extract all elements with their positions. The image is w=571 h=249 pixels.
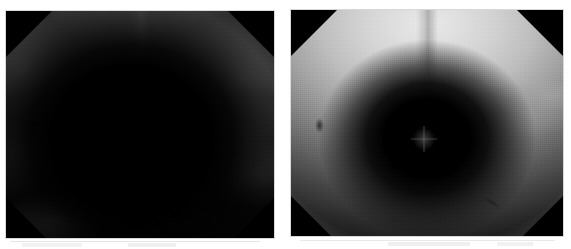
scan-artifact-right-rule — [300, 240, 555, 241]
scan-artifact-left-mark-2 — [128, 243, 176, 247]
left-film-grain — [6, 11, 274, 238]
right-film-grain — [291, 10, 563, 236]
scan-artifact-right-mark-2 — [497, 242, 533, 246]
figure-root — [0, 0, 571, 249]
endoscopic-image-left — [6, 11, 274, 238]
scan-artifact-left-mark-1 — [22, 243, 82, 247]
endoscopic-image-right — [291, 10, 563, 236]
scan-artifact-left-rule — [10, 241, 260, 242]
scan-artifact-right-mark-1 — [388, 242, 470, 246]
